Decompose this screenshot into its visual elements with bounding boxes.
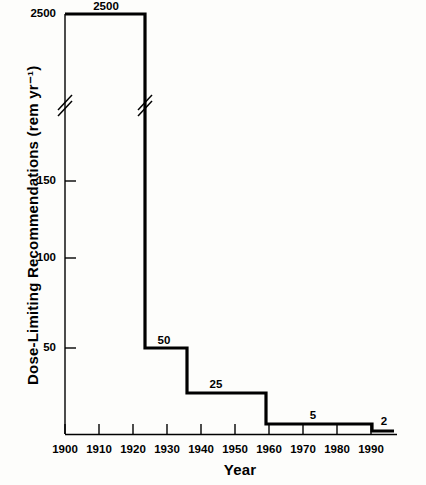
data-label-25: 25 — [196, 378, 236, 390]
x-tick-label-1990: 1990 — [351, 443, 391, 455]
y-axis-title: Dose-Limiting Recommendations (rem yr⁻¹) — [24, 85, 42, 385]
data-label-50: 50 — [144, 334, 184, 346]
step-chart-plot — [0, 0, 426, 485]
data-label-2: 2 — [373, 415, 395, 427]
y-tick-label-2500: 2500 — [8, 7, 56, 19]
x-axis-title: Year — [160, 461, 320, 478]
data-label-5: 5 — [300, 409, 326, 421]
dose-limit-step-path — [65, 14, 394, 431]
axis-lines — [65, 14, 397, 435]
chart-figure: 2500 150 100 50 1900 1910 1920 1930 1940… — [0, 0, 426, 485]
data-label-2500: 2500 — [83, 0, 129, 12]
y-axis-ticks — [65, 14, 76, 348]
data-series-line — [65, 14, 394, 431]
axis-break-marks — [58, 95, 152, 116]
